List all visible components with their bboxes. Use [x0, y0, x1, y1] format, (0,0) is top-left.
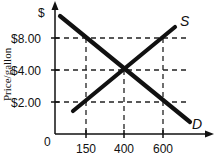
x-axis-arrow-icon	[205, 131, 214, 138]
demand-label: D	[192, 116, 202, 132]
x-tick-label-400: 400	[114, 142, 134, 156]
y-tick-label-2: $2.00	[11, 96, 41, 110]
origin-label: 0	[44, 135, 51, 149]
supply-label: S	[180, 13, 190, 29]
y-unit-label: $	[38, 6, 45, 20]
x-tick-label-600: 600	[153, 142, 173, 156]
supply-demand-chart: $ $8.00 $4.00 $2.00 Price/gallon 0 150 4…	[0, 0, 216, 156]
y-tick-label-4: $4.00	[11, 64, 41, 78]
y-axis-title: Price/gallon	[1, 47, 13, 101]
x-tick-label-150: 150	[76, 142, 96, 156]
y-tick-label-8: $8.00	[11, 32, 41, 46]
y-axis-arrow-icon	[52, 1, 59, 10]
reference-lines	[55, 38, 188, 134]
